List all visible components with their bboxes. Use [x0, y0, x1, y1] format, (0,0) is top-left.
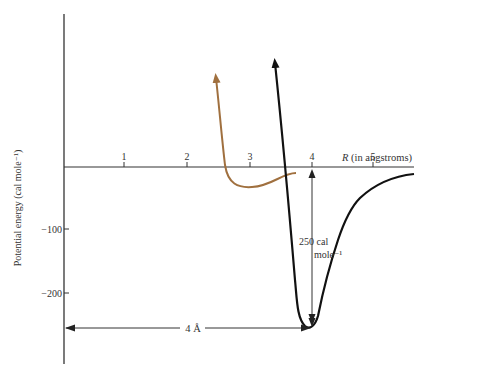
- x-tick-2: 2: [185, 151, 190, 162]
- shallow-well-curve: [216, 78, 296, 187]
- depth-arrow-head-top: [309, 169, 316, 178]
- distance-arrow-head-left: [65, 325, 75, 332]
- y-tick-labels: −100 −200: [41, 224, 62, 299]
- y-tick-minus-200: −200: [41, 288, 62, 299]
- x-axis-label: R (in angstroms): [341, 152, 412, 164]
- y-axis-label: Potential energy (cal mole⁻¹): [12, 150, 24, 267]
- x-tick-1: 1: [122, 151, 127, 162]
- y-ticks: [64, 229, 69, 293]
- depth-label-units: mole⁻¹: [314, 249, 342, 260]
- y-tick-minus-100: −100: [41, 224, 62, 235]
- potential-energy-chart: 1 2 3 4 5 R (in angstroms) −100 −200 Pot…: [0, 0, 503, 379]
- x-ticks: [124, 162, 373, 167]
- x-tick-3: 3: [248, 151, 253, 162]
- deep-well-curve: [275, 63, 414, 328]
- distance-label: 4 Å: [185, 323, 201, 334]
- x-tick-4: 4: [310, 151, 315, 162]
- x-tick-labels: 1 2 3 4 5: [122, 151, 376, 162]
- depth-label: 250 cal: [299, 236, 328, 247]
